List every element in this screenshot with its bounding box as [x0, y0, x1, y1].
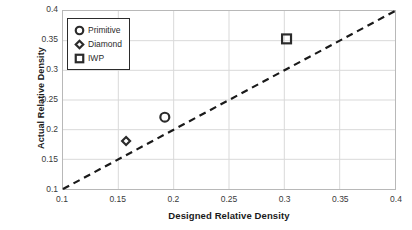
y-tick-label: 0.2 [18, 124, 58, 134]
plot-area: PrimitiveDiamondIWP [62, 10, 396, 190]
y-tick-label: 0.4 [18, 4, 58, 14]
legend-item-iwp[interactable]: IWP [73, 51, 122, 65]
legend-item-label: IWP [88, 53, 104, 63]
y-tick-label: 0.25 [18, 94, 58, 104]
x-tick-label: 0.4 [373, 194, 412, 204]
x-tick-label: 0.1 [39, 194, 85, 204]
circle-marker-icon [73, 24, 86, 37]
data-point [122, 137, 130, 145]
y-tick-label: 0.35 [18, 34, 58, 44]
series-primitive [160, 113, 169, 122]
diamond-marker-icon [73, 38, 86, 51]
x-axis-tick-labels: 0.10.150.20.250.30.350.4 [0, 194, 412, 208]
x-axis-title: Designed Relative Density [62, 210, 396, 221]
x-tick-label: 0.3 [262, 194, 308, 204]
y-tick-label: 0.3 [18, 64, 58, 74]
chart-figure: Actual Relative Density 0.10.150.20.250.… [0, 0, 412, 230]
y-tick-label: 0.1 [18, 184, 58, 194]
series-iwp [282, 34, 291, 43]
series-diamond [122, 137, 130, 145]
chart-legend[interactable]: PrimitiveDiamondIWP [67, 18, 130, 70]
data-point [282, 34, 291, 43]
legend-item-primitive[interactable]: Primitive [73, 23, 122, 37]
y-tick-label: 0.15 [18, 154, 58, 164]
data-point [160, 113, 169, 122]
x-tick-label: 0.2 [150, 194, 196, 204]
x-tick-label: 0.25 [206, 194, 252, 204]
legend-item-label: Primitive [88, 25, 121, 35]
x-tick-label: 0.35 [317, 194, 363, 204]
x-tick-label: 0.15 [95, 194, 141, 204]
square-marker-icon [73, 52, 86, 65]
legend-item-label: Diamond [88, 39, 122, 49]
legend-item-diamond[interactable]: Diamond [73, 37, 122, 51]
